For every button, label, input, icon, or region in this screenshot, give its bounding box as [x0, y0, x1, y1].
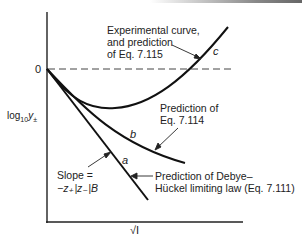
arrow-b	[157, 128, 178, 148]
zero-tick-label: 0	[35, 63, 41, 76]
curve-b-label: b	[130, 128, 136, 141]
figure: 0 log10y± √I Experimental curve, and pre…	[0, 0, 302, 240]
annotation-b: Prediction of Eq. 7.114	[160, 102, 218, 126]
y-axis-label: log10y±	[7, 109, 37, 126]
curve-a-label: a	[122, 154, 128, 167]
annotation-a: Prediction of Debye– Hückel limiting law…	[155, 170, 295, 194]
curve-c-label: c	[213, 45, 219, 58]
annotation-c: Experimental curve, and prediction of Eq…	[107, 24, 200, 60]
slope-label: Slope = −z₊|z₋|B	[57, 169, 98, 195]
x-axis-label: √I	[130, 224, 139, 237]
